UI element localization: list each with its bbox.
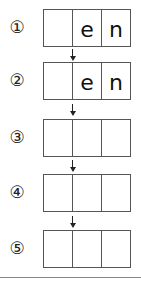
step-number: ⑤ <box>8 239 26 257</box>
letter-cell[interactable] <box>44 120 73 156</box>
step-number: ① <box>8 18 26 36</box>
letter-cell[interactable] <box>44 231 73 267</box>
step-row-2: ② e n <box>0 62 141 100</box>
down-arrow-icon <box>70 49 76 61</box>
letter-cell[interactable] <box>44 63 73 99</box>
letter-cell[interactable]: e <box>73 63 102 99</box>
letter-boxes: e n <box>43 9 131 47</box>
letter-cell[interactable]: n <box>102 10 130 46</box>
letter-cell[interactable] <box>102 175 130 211</box>
letter-cell[interactable] <box>44 175 73 211</box>
down-arrow-icon <box>70 104 76 116</box>
down-arrow-icon <box>70 160 76 172</box>
step-row-4: ④ <box>0 174 141 212</box>
step-number: ② <box>8 71 26 89</box>
letter-boxes <box>43 119 131 157</box>
letter-cell[interactable]: n <box>102 63 130 99</box>
letter-boxes: e n <box>43 62 131 100</box>
letter-cell[interactable] <box>102 120 130 156</box>
step-row-3: ③ <box>0 119 141 157</box>
bottom-divider <box>0 277 141 278</box>
step-row-5: ⑤ <box>0 230 141 268</box>
letter-boxes <box>43 174 131 212</box>
letter-cell[interactable] <box>73 231 102 267</box>
letter-cell[interactable] <box>73 120 102 156</box>
letter-cell[interactable] <box>44 10 73 46</box>
letter-cell[interactable] <box>73 175 102 211</box>
step-number: ③ <box>8 128 26 146</box>
letter-cell[interactable]: e <box>73 10 102 46</box>
step-number: ④ <box>8 183 26 201</box>
down-arrow-icon <box>70 216 76 228</box>
letter-boxes <box>43 230 131 268</box>
step-row-1: ① e n <box>0 9 141 47</box>
letter-cell[interactable] <box>102 231 130 267</box>
